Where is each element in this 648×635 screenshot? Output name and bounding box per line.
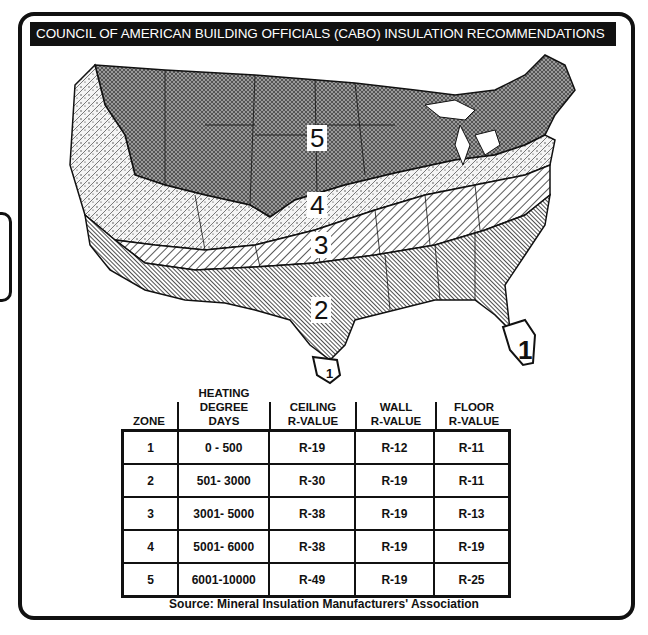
zone-label-3: 3 [311, 232, 331, 258]
adjacent-panel-edge [0, 212, 12, 302]
header-ceiling-r-value: CEILING R-VALUE [271, 400, 355, 428]
cell-floor: R-13 [434, 497, 509, 530]
r-value-table: 1 0 - 500 R-19 R-12 R-11 2 501- 3000 R-3… [121, 429, 511, 598]
cell-degree-days: 3001- 5000 [178, 497, 269, 530]
cell-wall: R-19 [355, 464, 434, 497]
header-heating-degree-days: HEATING DEGREE DAYS [179, 386, 269, 428]
zone-label-2: 2 [311, 297, 331, 323]
zone-label-4: 4 [307, 192, 327, 218]
cell-floor: R-19 [434, 530, 509, 563]
cell-wall: R-12 [355, 431, 434, 465]
header-floor-r-value: FLOOR R-VALUE [437, 400, 511, 428]
cell-degree-days: 5001- 6000 [178, 530, 269, 563]
source-caption: Source: Mineral Insulation Manufacturers… [0, 597, 648, 611]
cell-degree-days: 501- 3000 [178, 464, 269, 497]
figure-title: COUNCIL OF AMERICAN BUILDING OFFICIALS (… [30, 22, 616, 46]
cell-ceiling: R-30 [269, 464, 354, 497]
table-row: 4 5001- 6000 R-38 R-19 R-19 [123, 530, 510, 563]
cell-ceiling: R-49 [269, 563, 354, 597]
cell-zone: 3 [123, 497, 179, 530]
table-header: ZONE HEATING DEGREE DAYS CEILING R-VALUE… [121, 376, 511, 430]
cell-zone: 1 [123, 431, 179, 465]
cell-wall: R-19 [355, 563, 434, 597]
cell-zone: 5 [123, 563, 179, 597]
cell-zone: 4 [123, 530, 179, 563]
zone-label-1-florida: 1 [515, 337, 535, 363]
cell-ceiling: R-38 [269, 497, 354, 530]
cell-ceiling: R-19 [269, 431, 354, 465]
cell-wall: R-19 [355, 497, 434, 530]
cell-floor: R-11 [434, 464, 509, 497]
cell-zone: 2 [123, 464, 179, 497]
insulation-table: ZONE HEATING DEGREE DAYS CEILING R-VALUE… [121, 376, 511, 430]
cell-degree-days: 6001-10000 [178, 563, 269, 597]
table-row: 3 3001- 5000 R-38 R-19 R-13 [123, 497, 510, 530]
cell-floor: R-11 [434, 431, 509, 465]
us-zone-map: 5 4 3 2 1 1 [55, 45, 625, 385]
us-map-graphic [55, 45, 625, 385]
cell-floor: R-25 [434, 563, 509, 597]
zone-label-5: 5 [307, 125, 327, 151]
cell-wall: R-19 [355, 530, 434, 563]
header-zone: ZONE [121, 414, 177, 428]
header-wall-r-value: WALL R-VALUE [357, 400, 435, 428]
cell-degree-days: 0 - 500 [178, 431, 269, 465]
table-row: 1 0 - 500 R-19 R-12 R-11 [123, 431, 510, 465]
table-row: 2 501- 3000 R-30 R-19 R-11 [123, 464, 510, 497]
cell-ceiling: R-38 [269, 530, 354, 563]
table-row: 5 6001-10000 R-49 R-19 R-25 [123, 563, 510, 597]
